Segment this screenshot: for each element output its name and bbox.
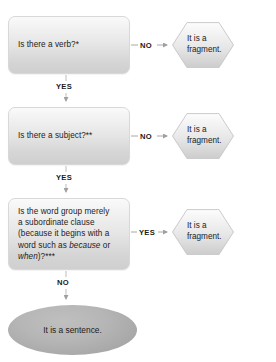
decision-box-subordinate-clause-label: Is the word group merely a subordinate c… [18,206,110,262]
hexagon-2-outline [172,113,234,159]
clause-line-2: a subordinate clause [18,218,95,227]
hexagon-1-outline [172,22,234,68]
decision-box-verb-label: Is there a verb?* [18,39,79,50]
connector-label-no-2: NO [140,132,152,141]
hexagon-3-outline [172,209,234,255]
clause-emphasis-because: because [69,241,100,250]
decision-box-verb: Is there a verb?* [8,16,130,74]
decision-box-subject: Is there a subject?** [8,107,130,165]
clause-line-4-mid: or [100,241,110,250]
outcome-ellipse-sentence: It is a sentence. [8,305,137,355]
connector-label-yes-1: YES [56,82,72,91]
clause-line-3: (because it begins with a [18,229,109,238]
connector-label-yes-3: YES [139,228,155,237]
decision-box-subordinate-clause: Is the word group merely a subordinate c… [8,198,130,270]
clause-emphasis-when: when [18,252,38,261]
connector-label-no-1: NO [140,41,152,50]
flowchart-diagram: Is there a verb?* Is there a subject?** … [0,0,276,362]
clause-line-4-pre: word such as [18,241,69,250]
connector-label-no-3: NO [57,278,69,287]
connector-label-yes-2: YES [56,173,72,182]
decision-box-subject-label: Is there a subject?** [18,130,92,141]
outcome-ellipse-sentence-label: It is a sentence. [43,325,102,335]
clause-line-1: Is the word group merely [18,207,109,216]
clause-line-5-post: )?*** [38,252,55,261]
